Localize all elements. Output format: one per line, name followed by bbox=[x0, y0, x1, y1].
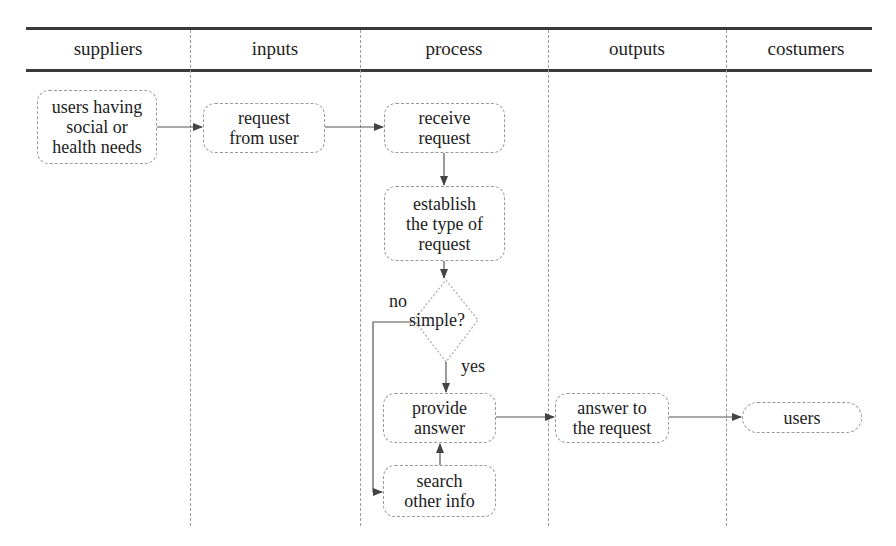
edge-label-no: no bbox=[389, 291, 407, 312]
node-users-having-needs: users having social or health needs bbox=[37, 90, 157, 164]
node-establish-type: establish the type of request bbox=[384, 186, 505, 261]
edge-label-yes: yes bbox=[461, 356, 485, 377]
node-receive-request: receive request bbox=[384, 103, 505, 153]
decision-simple-label: simple? bbox=[409, 310, 465, 331]
node-provide-answer: provide answer bbox=[383, 393, 496, 443]
node-request-from-user: request from user bbox=[203, 103, 325, 153]
node-users: users bbox=[742, 402, 862, 433]
node-answer-to-request: answer to the request bbox=[555, 393, 669, 443]
node-search-other-info: search other info bbox=[383, 465, 496, 517]
